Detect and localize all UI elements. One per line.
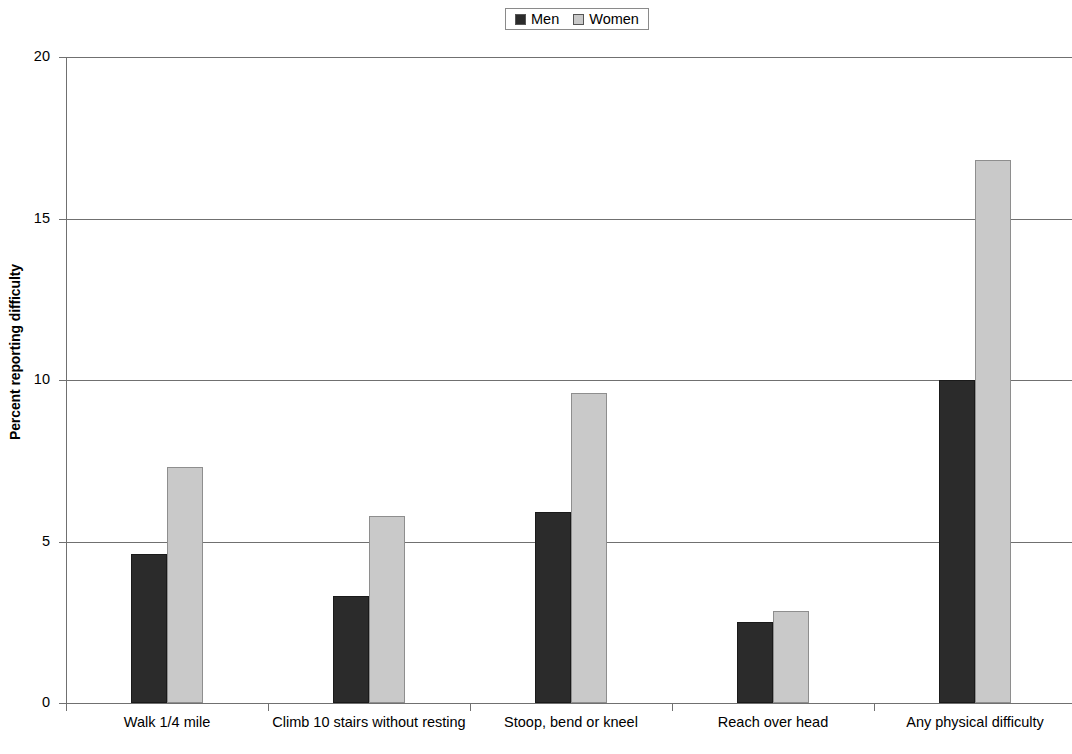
y-tick-label: 15 xyxy=(34,211,50,226)
y-tick-mark xyxy=(59,380,66,381)
y-tick-mark xyxy=(59,542,66,543)
bar-women-0 xyxy=(167,467,203,703)
y-axis-title-text: Percent reporting difficulty xyxy=(7,263,23,439)
chart-legend: Men Women xyxy=(505,8,649,30)
x-tick-1 xyxy=(268,703,269,711)
x-tick-3 xyxy=(672,703,673,711)
y-tick-label: 0 xyxy=(42,695,50,710)
x-tick-0 xyxy=(66,703,67,711)
legend-swatch-men-icon xyxy=(515,14,526,25)
bar-men-1 xyxy=(333,596,369,703)
bar-women-3 xyxy=(773,611,809,703)
bar-women-2 xyxy=(571,393,607,703)
x-category-label-2: Stoop, bend or kneel xyxy=(470,714,672,731)
y-tick-label: 10 xyxy=(34,372,50,387)
x-category-label-1: Climb 10 stairs without resting xyxy=(268,714,470,731)
legend-swatch-women-icon xyxy=(573,14,584,25)
x-axis-line xyxy=(66,703,1072,704)
gridline-15 xyxy=(66,219,1072,220)
bar-women-1 xyxy=(369,516,405,703)
x-tick-2 xyxy=(470,703,471,711)
y-tick-label: 5 xyxy=(42,534,50,549)
bar-men-2 xyxy=(535,512,571,703)
bar-men-0 xyxy=(131,554,167,703)
x-category-label-3: Reach over head xyxy=(672,714,874,731)
y-tick-mark xyxy=(59,703,66,704)
x-category-label-4: Any physical difficulty xyxy=(874,714,1072,731)
gridline-10 xyxy=(66,380,1072,381)
x-category-label-0: Walk 1/4 mile xyxy=(66,714,268,731)
legend-label-women: Women xyxy=(589,12,639,27)
y-tick-mark xyxy=(59,57,66,58)
plot-area xyxy=(66,57,1072,703)
legend-label-men: Men xyxy=(531,12,559,27)
y-axis-title: Percent reporting difficulty xyxy=(0,0,30,703)
bar-men-3 xyxy=(737,622,773,703)
bar-women-4 xyxy=(975,160,1011,703)
legend-entry-women: Women xyxy=(573,12,639,27)
gridline-20 xyxy=(66,57,1072,58)
legend-entry-men: Men xyxy=(515,12,559,27)
y-tick-label: 20 xyxy=(34,49,50,64)
bar-men-4 xyxy=(939,380,975,703)
x-tick-4 xyxy=(874,703,875,711)
y-tick-mark xyxy=(59,219,66,220)
